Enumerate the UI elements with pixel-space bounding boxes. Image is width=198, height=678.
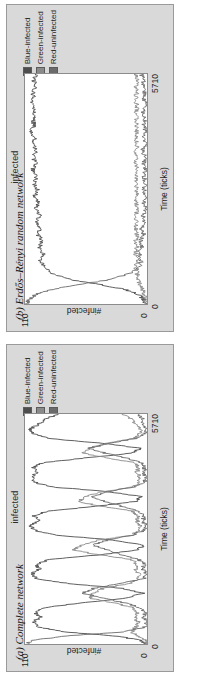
legend-label-blue-infected: Blue-infected [23,358,32,405]
legend-label-green-infected: Green-infected [36,11,45,64]
x-axis-label-b: Time (ticks) [159,73,169,305]
panel-erdos-renyi: infected Blue-infected Green-infected Re… [0,0,198,338]
caption-panel-b: (b) Erdős–Rényi random network [13,173,25,320]
legend-item-red-uninfected[interactable]: Red-uninfected [48,350,59,416]
y-axis-label-a: #infected [34,646,134,656]
legend-label-red-uninfected: Red-uninfected [49,10,58,64]
y-tick-min-a: 0 [139,653,149,658]
plot-container-a: infected Blue-infected Green-infected Re… [6,344,174,672]
legend-label-red-uninfected: Red-uninfected [49,350,58,404]
x-axis-label-a: Time (ticks) [159,413,169,645]
legend-label-green-infected: Green-infected [36,351,45,404]
plot-area-a [24,413,148,645]
legend-a: Blue-infected Green-infected Red-uninfec… [22,350,59,416]
legend-item-blue-infected[interactable]: Blue-infected [22,350,33,416]
caption-panel-a: (a) Complete network [13,564,25,660]
legend-item-blue-infected[interactable]: Blue-infected [22,10,33,76]
y-tick-min-b: 0 [139,313,149,318]
plot-container-b: infected Blue-infected Green-infected Re… [6,4,174,332]
plot-area-b [24,73,148,305]
legend-item-green-infected[interactable]: Green-infected [35,350,46,416]
legend-b: Blue-infected Green-infected Red-uninfec… [22,10,59,76]
legend-label-blue-infected: Blue-infected [23,18,32,65]
panel-a-canvas: infected Blue-infected Green-infected Re… [6,342,176,672]
legend-item-red-uninfected[interactable]: Red-uninfected [48,10,59,76]
panel-complete-network: infected Blue-infected Green-infected Re… [0,340,198,678]
y-axis-label-b: #infected [34,306,134,316]
series-canvas-b [25,74,147,304]
panel-b-canvas: infected Blue-infected Green-infected Re… [6,2,176,332]
series-canvas-a [25,414,147,644]
legend-item-green-infected[interactable]: Green-infected [35,10,46,76]
